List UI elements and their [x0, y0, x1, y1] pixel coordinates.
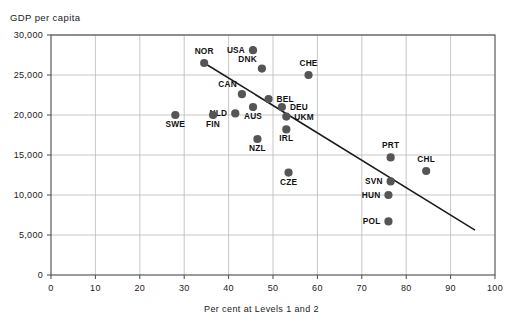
data-point-hun [384, 191, 392, 199]
data-point-nzl [253, 135, 261, 143]
data-point-label-ukm: UKM [294, 112, 314, 122]
data-point-label-fin: FIN [206, 119, 220, 129]
data-point-nld [231, 109, 239, 117]
data-point-label-deu: DEU [290, 102, 308, 112]
data-point-label-svn: SVN [365, 176, 383, 186]
data-point-label-che: CHE [299, 58, 317, 68]
x-tick-label: 10 [90, 283, 101, 293]
x-tick-label: 100 [487, 283, 503, 293]
trend-line [204, 63, 475, 230]
x-tick-label: 90 [445, 283, 456, 293]
y-tick-label: 0 [38, 270, 43, 280]
x-tick-label: 80 [401, 283, 412, 293]
data-point-label-swe: SWE [166, 119, 186, 129]
x-tick-label: 0 [48, 283, 53, 293]
data-point-label-chl: CHL [417, 154, 435, 164]
data-point-label-aus: AUS [244, 111, 262, 121]
data-point-pol [384, 217, 392, 225]
x-tick-label: 20 [134, 283, 145, 293]
data-point-fin [209, 111, 217, 119]
data-point-chl [422, 167, 430, 175]
data-point-label-can: CAN [218, 79, 237, 89]
data-point-nor [200, 59, 208, 67]
data-point-irl [282, 125, 290, 133]
y-tick-label: 20,000 [14, 110, 43, 120]
y-tick-label: 15,000 [14, 150, 43, 160]
data-point-deu [278, 103, 286, 111]
data-point-swe [171, 111, 179, 119]
data-point-aus [249, 103, 257, 111]
data-point-che [304, 71, 312, 79]
x-axis-title: Per cent at Levels 1 and 2 [0, 304, 523, 314]
data-point-label-nor: NOR [195, 46, 214, 56]
y-tick-label: 30,000 [14, 30, 43, 40]
data-point-can [238, 90, 246, 98]
data-point-label-nzl: NZL [249, 143, 266, 153]
y-tick-label: 10,000 [14, 190, 43, 200]
x-tick-label: 40 [223, 283, 234, 293]
y-tick-label: 25,000 [14, 70, 43, 80]
scatter-chart: GDP per capita 05,00010,00015,00020,0002… [0, 0, 523, 330]
x-tick-label: 50 [268, 283, 279, 293]
plot-area: 05,00010,00015,00020,00025,00030,0000102… [0, 0, 523, 330]
data-point-prt [387, 153, 395, 161]
data-point-label-dnk: DNK [238, 54, 257, 64]
data-point-label-prt: PRT [382, 140, 399, 150]
data-point-dnk [258, 65, 266, 73]
y-tick-label: 5,000 [19, 230, 43, 240]
data-point-svn [387, 177, 395, 185]
data-point-ukm [282, 113, 290, 121]
data-point-label-irl: IRL [279, 133, 293, 143]
data-point-cze [284, 169, 292, 177]
data-point-label-pol: POL [363, 216, 381, 226]
x-tick-label: 30 [179, 283, 190, 293]
data-point-label-cze: CZE [280, 177, 297, 187]
data-point-bel [264, 95, 272, 103]
x-tick-label: 60 [312, 283, 323, 293]
x-tick-label: 70 [356, 283, 367, 293]
data-point-label-hun: HUN [362, 190, 381, 200]
